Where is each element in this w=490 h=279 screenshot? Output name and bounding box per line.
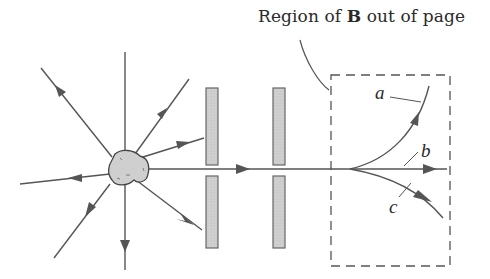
beam-arrow-icon — [236, 164, 250, 174]
plate-1-bottom — [206, 176, 218, 248]
leader-b — [404, 152, 418, 166]
plate-1-top — [206, 88, 218, 165]
ray-left — [20, 174, 110, 184]
path-a-arrow-icon — [410, 112, 419, 126]
title-field-symbol: B — [347, 6, 361, 26]
path-c-arrow-icon — [413, 190, 432, 202]
ray-right-shallow — [143, 138, 204, 157]
arrow-icon — [157, 108, 167, 119]
ray-upper-left — [41, 68, 112, 157]
diagram-canvas: Region of B out of page a b c — [0, 0, 490, 279]
ray-lower-left — [54, 184, 110, 258]
title-leader-line — [300, 40, 329, 90]
path-b-arrow-icon — [423, 164, 437, 174]
arrow-icon — [68, 174, 82, 182]
radioactive-source — [109, 150, 149, 185]
arrow-icon — [176, 141, 190, 149]
arrow-icon — [120, 240, 130, 252]
label-path-b: b — [421, 140, 431, 162]
label-path-c: c — [389, 196, 397, 218]
title-text: Region of — [258, 6, 347, 26]
arrow-icon — [176, 213, 194, 225]
arrow-icon — [55, 85, 66, 97]
ray-lower-right — [136, 180, 202, 230]
figure-title: Region of B out of page — [258, 6, 465, 26]
plate-2-top — [273, 88, 285, 165]
label-path-a: a — [375, 82, 385, 104]
particle-paths — [350, 86, 447, 218]
path-a — [350, 86, 429, 169]
plate-2-bottom — [273, 176, 285, 248]
leader-a — [390, 97, 421, 102]
title-text-suffix: out of page — [361, 6, 465, 26]
diagram-svg — [0, 0, 490, 279]
